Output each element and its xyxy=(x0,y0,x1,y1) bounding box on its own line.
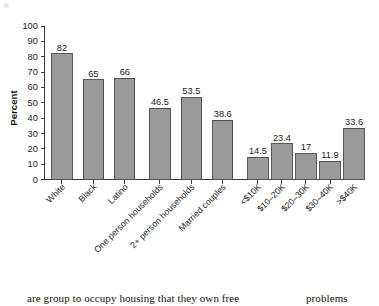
bar-6[interactable] xyxy=(248,157,268,179)
bar-5[interactable] xyxy=(213,120,233,179)
chart-svg: 100 90 80 70 60 50 40 30 20 10 0 Percent xyxy=(0,0,379,290)
value-label-3: 46.5 xyxy=(151,97,169,107)
x-category-labels: White Black Latino One person households… xyxy=(44,181,359,254)
bar-9[interactable] xyxy=(320,161,340,179)
y-tick-label: 40 xyxy=(28,113,38,123)
bar-3[interactable] xyxy=(150,108,170,179)
y-tick-label: 100 xyxy=(22,21,37,31)
bars-group xyxy=(52,54,364,180)
value-label-9: 11.9 xyxy=(321,150,338,160)
bar-1[interactable] xyxy=(83,80,103,180)
bar-chart-figure: 100 90 80 70 60 50 40 30 20 10 0 Percent xyxy=(0,0,379,306)
value-label-8: 17 xyxy=(301,142,311,152)
y-tick-label: 70 xyxy=(28,67,38,77)
bar-8[interactable] xyxy=(296,154,316,180)
value-label-7: 23.4 xyxy=(273,133,291,143)
y-axis-title: Percent xyxy=(8,89,19,125)
y-tick-label: 10 xyxy=(28,159,38,169)
bar-2[interactable] xyxy=(115,78,135,179)
x-label-black: Black xyxy=(76,181,99,204)
x-label-over-40k: >$40K xyxy=(334,182,359,207)
value-label-6: 14.5 xyxy=(249,146,267,156)
body-text-right-column: problems xyxy=(306,292,348,304)
bar-10[interactable] xyxy=(344,128,364,180)
y-tick-label: 20 xyxy=(28,144,38,154)
y-tick-label: 50 xyxy=(28,98,38,108)
y-tick-label: 0 xyxy=(33,175,38,185)
value-label-2: 66 xyxy=(120,67,130,77)
scan-artifact-speck xyxy=(4,3,9,8)
value-label-5: 38.6 xyxy=(214,109,232,119)
y-tick-label: 60 xyxy=(28,82,38,92)
y-tick-label: 90 xyxy=(28,36,38,46)
x-tick-marks xyxy=(62,180,330,184)
bar-0[interactable] xyxy=(52,54,72,180)
value-label-0: 82 xyxy=(57,43,67,53)
y-tick-label: 30 xyxy=(28,129,38,139)
x-label-white: White xyxy=(44,182,67,205)
y-tick-label: 80 xyxy=(28,52,38,62)
page-body-text: are group to occupy housing that they ow… xyxy=(0,292,379,306)
value-label-1: 65 xyxy=(88,69,98,79)
value-label-4: 53.5 xyxy=(182,86,200,96)
bar-4[interactable] xyxy=(181,98,201,180)
y-tick-marks xyxy=(41,26,45,179)
value-label-10: 33.6 xyxy=(345,117,363,127)
x-label-latino: Latino xyxy=(106,182,130,206)
y-tick-labels: 100 90 80 70 60 50 40 30 20 10 0 xyxy=(22,21,37,184)
bar-7[interactable] xyxy=(272,144,292,180)
body-text-left-column: are group to occupy housing that they ow… xyxy=(27,292,239,304)
